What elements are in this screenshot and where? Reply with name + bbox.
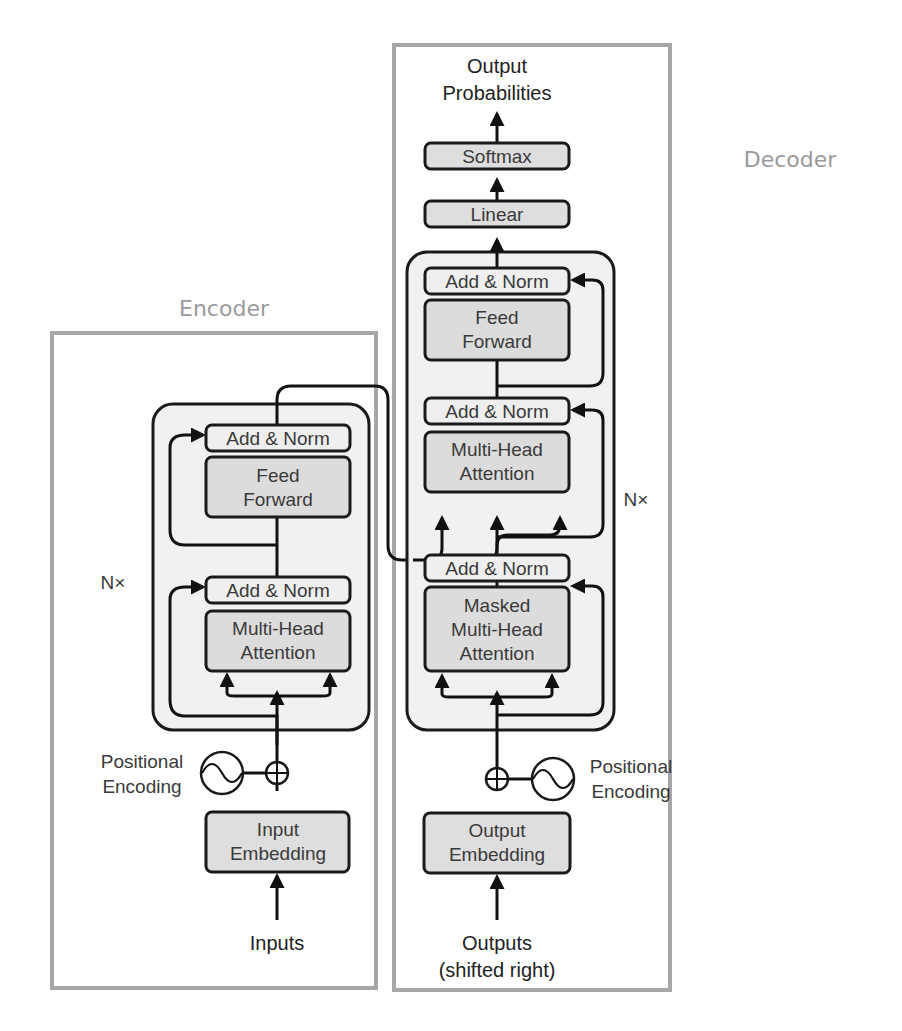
encoder-multi-head-attention: Multi-Head Attention: [206, 611, 350, 671]
svg-text:Feed: Feed: [475, 307, 518, 328]
encoder-input-embedding: Input Embedding: [206, 812, 349, 872]
decoder-add-norm-1: Add & Norm: [425, 555, 569, 581]
output-probabilities-label-2: Probabilities: [443, 82, 552, 104]
svg-text:Attention: Attention: [241, 642, 316, 663]
svg-text:Positional: Positional: [590, 756, 672, 777]
svg-text:Multi-Head: Multi-Head: [451, 439, 543, 460]
decoder-softmax: Softmax: [425, 143, 569, 169]
svg-text:Multi-Head: Multi-Head: [232, 618, 324, 639]
svg-text:Forward: Forward: [243, 489, 313, 510]
outputs-label: Outputs: [462, 932, 532, 954]
decoder-feed-forward: Feed Forward: [425, 300, 569, 360]
encoder-positional-encoding: Positional Encoding: [101, 751, 288, 797]
decoder-positional-encoding: Positional Encoding: [486, 756, 672, 802]
encoder-feed-forward: Feed Forward: [206, 457, 350, 517]
svg-text:Attention: Attention: [460, 463, 535, 484]
encoder-layer-stack: [153, 404, 369, 730]
svg-text:Embedding: Embedding: [449, 844, 545, 865]
svg-text:Feed: Feed: [256, 465, 299, 486]
svg-text:Attention: Attention: [460, 643, 535, 664]
svg-text:Softmax: Softmax: [462, 146, 532, 167]
encoder-repeat-label: N×: [101, 572, 126, 593]
encoder-title: Encoder: [179, 296, 270, 321]
svg-text:Forward: Forward: [462, 331, 532, 352]
decoder-repeat-label: N×: [624, 489, 649, 510]
svg-text:Add & Norm: Add & Norm: [226, 580, 329, 601]
svg-text:Add & Norm: Add & Norm: [445, 401, 548, 422]
decoder-output-embedding: Output Embedding: [424, 813, 570, 873]
svg-text:Encoding: Encoding: [102, 776, 181, 797]
output-probabilities-label: Output: [467, 55, 527, 77]
decoder-title: Decoder: [744, 147, 838, 172]
decoder-add-norm-2: Add & Norm: [425, 398, 569, 424]
decoder-cross-attention: Multi-Head Attention: [425, 432, 569, 492]
encoder-add-norm-1: Add & Norm: [206, 577, 350, 603]
svg-text:Masked: Masked: [464, 595, 531, 616]
svg-text:Add & Norm: Add & Norm: [445, 558, 548, 579]
svg-text:Multi-Head: Multi-Head: [451, 619, 543, 640]
svg-text:Embedding: Embedding: [230, 843, 326, 864]
svg-text:Add & Norm: Add & Norm: [445, 271, 548, 292]
encoder-add-norm-2: Add & Norm: [206, 425, 350, 451]
svg-text:Add & Norm: Add & Norm: [226, 428, 329, 449]
svg-text:Encoding: Encoding: [591, 781, 670, 802]
svg-text:Output: Output: [468, 820, 526, 841]
svg-text:Input: Input: [257, 819, 300, 840]
decoder-linear: Linear: [425, 201, 569, 227]
inputs-label: Inputs: [250, 932, 304, 954]
decoder-masked-multi-head-attention: Masked Multi-Head Attention: [425, 587, 569, 671]
outputs-shifted-label: (shifted right): [439, 959, 556, 981]
svg-text:Positional: Positional: [101, 751, 183, 772]
svg-text:Linear: Linear: [471, 204, 524, 225]
decoder-add-norm-3: Add & Norm: [425, 268, 569, 294]
transformer-architecture-diagram: Encoder Decoder Add & Norm Feed Forward …: [0, 0, 902, 1031]
